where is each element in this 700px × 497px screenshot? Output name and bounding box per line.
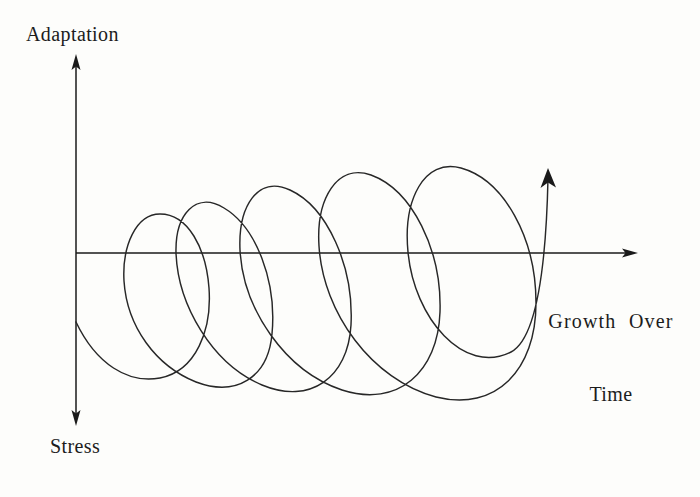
spiral-curve bbox=[76, 167, 548, 401]
x-axis-label-line-1: Growth Over bbox=[531, 309, 691, 333]
horizontal-axis bbox=[76, 249, 638, 258]
spiral-growth-diagram: Adaptation Stress Growth Over Time bbox=[0, 0, 700, 497]
y-axis-top-label: Adaptation bbox=[26, 22, 119, 46]
growth-spiral bbox=[76, 167, 556, 401]
vertical-axis bbox=[72, 54, 81, 426]
x-axis-label-line-2: Time bbox=[531, 382, 691, 406]
x-axis-label: Growth Over Time bbox=[531, 260, 691, 455]
y-axis-bottom-label: Stress bbox=[50, 434, 100, 458]
